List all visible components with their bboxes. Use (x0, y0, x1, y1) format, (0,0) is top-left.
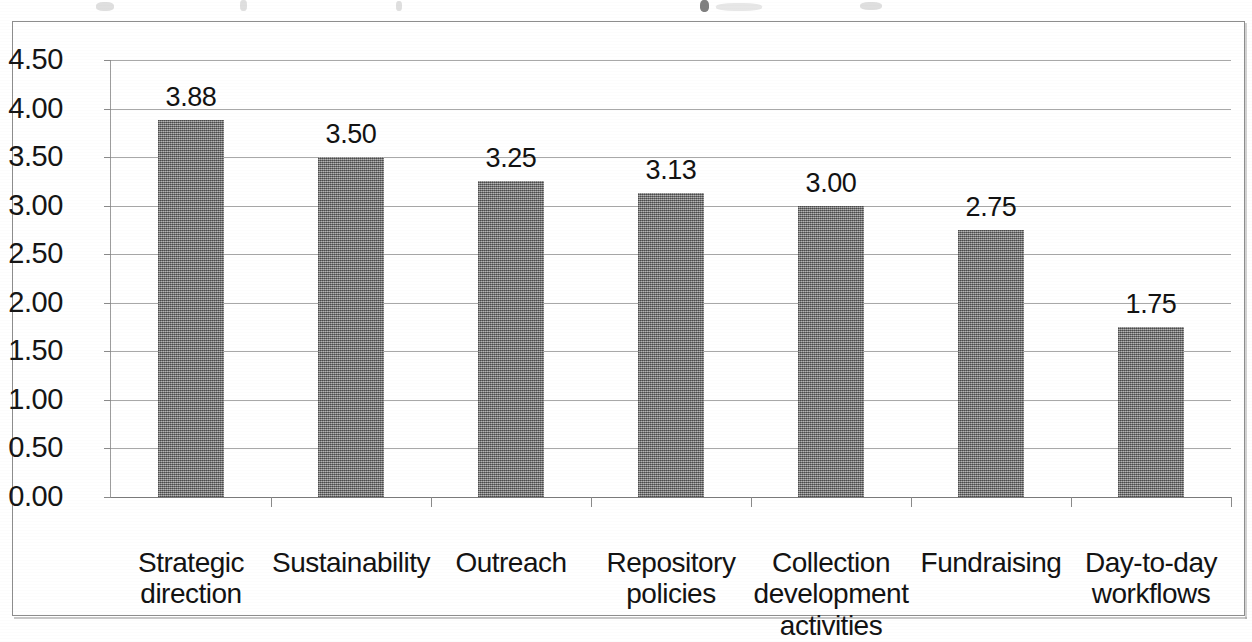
bar-value-label: 3.50 (291, 121, 411, 148)
y-axis-tick (104, 109, 111, 110)
cropped-title-artifact (0, 0, 1252, 14)
bar-value-label: 3.25 (451, 145, 571, 172)
frame-shadow-bottom (14, 617, 1247, 619)
bar-value-label: 3.88 (131, 84, 251, 111)
y-axis-tick (104, 400, 111, 401)
x-axis-category-label: Repositorypolicies (591, 547, 751, 610)
bar (478, 181, 544, 497)
y-axis-tick (104, 60, 111, 61)
y-axis-tick-label: 0.00 (8, 482, 63, 511)
bar-value-label: 2.75 (931, 194, 1051, 221)
x-axis-category-label: Sustainability (271, 547, 431, 578)
y-axis-tick (104, 254, 111, 255)
category-label-line: Collection (751, 547, 911, 578)
y-axis-tick (104, 157, 111, 158)
bar (318, 157, 384, 497)
x-axis-tick (911, 497, 912, 507)
y-axis-tick-label: 2.00 (8, 288, 63, 317)
x-axis-tick (271, 497, 272, 507)
category-label-line: Sustainability (271, 547, 431, 578)
bar (798, 206, 864, 497)
y-axis-tick-label: 3.00 (8, 191, 63, 220)
category-label-line: workflows (1071, 578, 1231, 609)
y-axis-tick (104, 497, 111, 498)
x-axis-tick (751, 497, 752, 507)
category-label-line: Strategic direction (111, 547, 271, 610)
y-axis-tick (104, 448, 111, 449)
x-axis-tick (1071, 497, 1072, 507)
category-label-line: Outreach (431, 547, 591, 578)
plot-area: 0.000.501.001.502.002.503.003.504.004.50… (111, 60, 1231, 497)
bar-value-label: 3.00 (771, 170, 891, 197)
x-axis-category-label: Day-to-dayworkflows (1071, 547, 1231, 610)
x-axis-line (111, 497, 1231, 498)
y-axis-tick-label: 4.50 (8, 45, 63, 74)
x-axis-category-label: Outreach (431, 547, 591, 578)
category-label-line: Fundraising (911, 547, 1071, 578)
y-axis-tick (104, 206, 111, 207)
gridline (111, 60, 1231, 61)
y-axis-tick-label: 3.50 (8, 142, 63, 171)
bar (958, 230, 1024, 497)
category-label-line: development (751, 578, 911, 609)
bar (638, 193, 704, 497)
category-label-line: policies (591, 578, 751, 609)
y-axis-tick (104, 351, 111, 352)
y-axis-tick-label: 2.50 (8, 239, 63, 268)
chart-frame: 0.000.501.001.502.002.503.003.504.004.50… (12, 21, 1245, 616)
category-label-line: Repository (591, 547, 751, 578)
y-axis-tick (104, 303, 111, 304)
category-label-line: activities (751, 610, 911, 641)
bar (158, 120, 224, 497)
y-axis-tick-label: 4.00 (8, 94, 63, 123)
x-axis-tick (431, 497, 432, 507)
x-axis-tick (591, 497, 592, 507)
gridline (111, 109, 1231, 110)
y-axis-line (110, 60, 111, 498)
category-label-line: Day-to-day (1071, 547, 1231, 578)
x-axis-tick (1231, 497, 1232, 507)
bar (1118, 327, 1184, 497)
frame-shadow-right (1245, 23, 1247, 619)
x-axis-category-label: Fundraising (911, 547, 1071, 578)
y-axis-tick-label: 0.50 (8, 433, 63, 462)
x-axis-category-label: Collectiondevelopmentactivities (751, 547, 911, 641)
bar-value-label: 3.13 (611, 157, 731, 184)
y-axis-tick-label: 1.50 (8, 336, 63, 365)
y-axis-tick-label: 1.00 (8, 385, 63, 414)
bar-value-label: 1.75 (1091, 291, 1211, 318)
x-axis-category-label: Strategic direction (111, 547, 271, 610)
